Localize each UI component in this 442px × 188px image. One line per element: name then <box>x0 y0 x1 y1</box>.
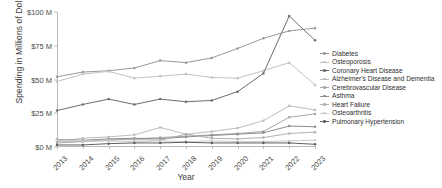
data-point <box>133 77 136 80</box>
legend-item-label: Pulmonary Hypertension <box>332 118 404 126</box>
legend-color-swatch <box>320 50 329 57</box>
data-point <box>211 76 214 79</box>
data-point <box>185 73 188 76</box>
chart-container: Spending in Millions of Dollars $0 M$25 … <box>0 0 442 188</box>
legend-item[interactable]: Alzheimer's Disease and Dementia <box>320 75 440 83</box>
data-point <box>159 59 162 62</box>
data-point <box>314 139 317 142</box>
legend-color-swatch <box>320 118 329 125</box>
legend-item[interactable]: Asthma <box>320 92 440 100</box>
legend-item-label: Heart Failure <box>332 101 370 109</box>
data-point <box>314 131 317 134</box>
data-point <box>185 133 188 136</box>
data-point <box>314 113 317 116</box>
data-point <box>159 142 162 145</box>
data-point <box>107 140 110 143</box>
y-axis-title: Spending in Millions of Dollars <box>14 0 24 120</box>
data-point <box>262 142 265 145</box>
data-point <box>314 27 317 30</box>
legend-color-swatch <box>320 84 329 91</box>
legend-item[interactable]: Heart Failure <box>320 101 440 109</box>
y-axis-tick-label: $75 M <box>31 41 52 50</box>
y-axis-tick-label: $0 M <box>35 143 52 152</box>
legend-item[interactable]: Osteoarthritis <box>320 109 440 117</box>
data-point <box>185 141 188 144</box>
series-line <box>57 28 315 77</box>
data-point <box>159 98 162 101</box>
x-axis-tick-mark <box>134 146 135 149</box>
legend-color-swatch <box>320 110 329 117</box>
data-point <box>314 126 317 129</box>
data-point <box>236 77 239 80</box>
data-point <box>262 132 265 135</box>
legend-color-swatch <box>320 101 329 108</box>
data-point <box>56 76 59 79</box>
legend-item-label: Osteoarthritis <box>332 109 371 117</box>
data-point <box>185 101 188 104</box>
x-axis-tick-mark <box>57 146 58 149</box>
data-point <box>236 133 239 136</box>
data-point <box>262 37 265 40</box>
legend-item[interactable]: Osteoporosis <box>320 58 440 66</box>
y-axis-tick-label: $50 M <box>31 75 52 84</box>
data-point <box>211 134 214 137</box>
x-axis-title: Year <box>57 172 315 182</box>
x-axis-tick-mark <box>238 146 239 149</box>
x-axis-tick-mark <box>160 146 161 149</box>
series-lines <box>57 12 315 147</box>
legend-item[interactable]: Pulmonary Hypertension <box>320 118 440 126</box>
data-point <box>185 61 188 64</box>
x-axis-tick-mark <box>289 146 290 149</box>
data-point <box>236 127 239 130</box>
data-point <box>211 99 214 102</box>
data-point <box>262 136 265 139</box>
y-axis-tick-label: $100 M <box>27 8 52 17</box>
data-point <box>314 39 317 42</box>
data-point <box>159 126 162 129</box>
legend-color-swatch <box>320 93 329 100</box>
legend-item[interactable]: Coronary Heart Disease <box>320 67 440 75</box>
data-point <box>314 109 317 112</box>
y-axis-tick-mark <box>54 12 57 13</box>
data-point <box>56 139 59 142</box>
legend-item[interactable]: Cerebrovascular Disease <box>320 84 440 92</box>
data-point <box>262 119 265 122</box>
x-axis-tick-mark <box>263 146 264 149</box>
legend-item-label: Alzheimer's Disease and Dementia <box>332 75 434 83</box>
data-point <box>236 142 239 145</box>
data-point <box>159 75 162 78</box>
data-point <box>107 98 110 101</box>
legend-color-swatch <box>320 76 329 83</box>
legend-color-swatch <box>320 67 329 74</box>
data-point <box>288 30 291 33</box>
data-point <box>288 132 291 135</box>
data-point <box>288 105 291 108</box>
legend-color-swatch <box>320 59 329 66</box>
data-point <box>107 142 110 145</box>
data-point <box>211 130 214 133</box>
legend-item-label: Diabetes <box>332 50 358 58</box>
data-point <box>82 103 85 106</box>
legend-item[interactable]: Diabetes <box>320 50 440 58</box>
legend-item-label: Asthma <box>332 92 354 100</box>
data-point <box>107 70 110 73</box>
legend-item-label: Coronary Heart Disease <box>332 67 403 75</box>
data-point <box>133 67 136 70</box>
legend-item-label: Cerebrovascular Disease <box>332 84 406 92</box>
data-point <box>288 116 291 119</box>
data-point <box>56 80 59 83</box>
y-axis-tick-mark <box>54 79 57 80</box>
series-line <box>57 114 315 143</box>
y-axis-tick-label: $25 M <box>31 109 52 118</box>
data-point <box>133 103 136 106</box>
data-point <box>236 47 239 50</box>
data-point <box>236 90 239 93</box>
data-point <box>262 72 265 75</box>
x-axis-tick-mark <box>109 146 110 149</box>
x-axis-tick-mark <box>186 146 187 149</box>
data-point <box>82 73 85 76</box>
data-point <box>211 57 214 60</box>
x-axis-tick-mark <box>212 146 213 149</box>
y-axis-tick-mark <box>54 45 57 46</box>
data-point <box>185 136 188 139</box>
